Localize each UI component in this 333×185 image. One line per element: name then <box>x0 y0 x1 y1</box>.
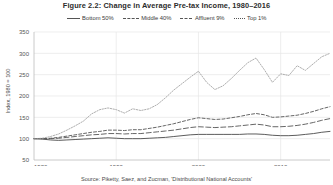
figure-container: Figure 2.2: Change in Average Pre-tax In… <box>0 0 333 185</box>
x-tick-label: 2000 <box>192 164 206 166</box>
legend-swatch-dot-icon <box>234 18 245 19</box>
x-tick-label: 1990 <box>110 164 124 166</box>
chart-legend: Bottom 50% Middle 40% Affluent 9% Top 1% <box>0 16 333 22</box>
legend-label-middle-40: Middle 40% <box>141 16 171 22</box>
y-tick-label: 50 <box>22 157 29 163</box>
y-tick-label: 150 <box>19 115 30 121</box>
plot-area: Index, 1980 = 100 50100150200250300350 1… <box>0 26 333 166</box>
legend-item-middle-40[interactable]: Middle 40% <box>123 16 172 22</box>
legend-label-bottom-50: Bottom 50% <box>82 16 114 22</box>
series-line-bottom-50 <box>34 131 330 140</box>
series-line-affluent-9 <box>34 107 330 139</box>
chart-svg: 50100150200250300350 1980199020002010 <box>0 26 333 166</box>
x-axis-ticks: 1980199020002010 <box>34 164 288 166</box>
legend-item-bottom-50[interactable]: Bottom 50% <box>67 16 114 22</box>
legend-label-top-1: Top 1% <box>247 16 266 22</box>
y-axis-label: Index, 1980 = 100 <box>5 56 11 126</box>
legend-item-affluent-9[interactable]: Affluent 9% <box>180 16 224 22</box>
gridlines <box>34 32 330 160</box>
y-axis-ticks: 50100150200250300350 <box>19 29 30 163</box>
source-note: Source: Piketty, Saez, and Zucman, 'Dist… <box>0 176 333 182</box>
chart-title: Figure 2.2: Change in Average Pre-tax In… <box>0 1 333 10</box>
legend-swatch-solid-icon <box>67 18 80 19</box>
legend-item-top-1[interactable]: Top 1% <box>234 16 267 22</box>
legend-label-affluent-9: Affluent 9% <box>195 16 225 22</box>
y-tick-label: 350 <box>19 29 30 35</box>
x-tick-label: 2010 <box>274 164 288 166</box>
y-tick-label: 200 <box>19 93 30 99</box>
legend-swatch-dash-icon <box>180 18 192 19</box>
y-tick-label: 250 <box>19 72 30 78</box>
x-tick-label: 1980 <box>34 164 48 166</box>
legend-swatch-longdash-icon <box>123 18 139 19</box>
data-series <box>34 53 330 140</box>
y-tick-label: 300 <box>19 51 30 57</box>
y-tick-label: 100 <box>19 136 30 142</box>
